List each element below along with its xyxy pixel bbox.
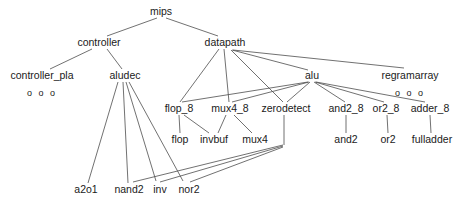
edge-mips-to-datapath [166, 18, 218, 36]
hierarchy-diagram-canvas: mipscontrollerdatapathcontroller_plaalud… [0, 0, 458, 206]
edge-zerodetect_junction-to-nand2 [133, 145, 283, 182]
edge-aludec-to-nand2 [123, 82, 128, 183]
node-invbuf[interactable]: invbuf [200, 134, 228, 145]
edge-adder_8-to-fulladder [430, 115, 431, 133]
node-or2_8[interactable]: or2_8 [373, 103, 400, 114]
node-regramarray[interactable]: regramarray [381, 70, 438, 81]
node-controller[interactable]: controller [77, 37, 120, 48]
edge-or2_8-to-or2 [387, 115, 388, 133]
edge-controller-to-aludec [107, 49, 122, 69]
edge-alu-to-or2_8 [315, 82, 384, 102]
node-mux4_8[interactable]: mux4_8 [211, 103, 248, 114]
edge-flop_8-to-invbuf [184, 115, 209, 133]
ellipsis-controller_pla_children: o o o [27, 88, 57, 98]
node-nand2[interactable]: nand2 [114, 184, 143, 195]
edge-datapath-to-regramarray [233, 50, 404, 68]
node-adder_8[interactable]: adder_8 [411, 103, 450, 114]
node-and2_8[interactable]: and2_8 [328, 103, 363, 114]
edge-aludec-to-nor2 [129, 82, 183, 181]
edge-zerodetect_junction-to-inv [160, 146, 283, 182]
node-mux4[interactable]: mux4 [242, 134, 268, 145]
node-or2[interactable]: or2 [380, 134, 395, 145]
edge-datapath-to-flop_8 [180, 49, 219, 102]
edge-mux4_8-to-invbuf [218, 115, 226, 133]
node-alu[interactable]: alu [305, 70, 319, 81]
node-inv[interactable]: inv [153, 184, 166, 195]
node-fulladder[interactable]: fulladder [412, 134, 452, 145]
node-flop[interactable]: flop [172, 134, 189, 145]
edge-aludec-to-a2o1 [88, 82, 118, 183]
node-a2o1[interactable]: a2o1 [74, 184, 97, 195]
node-controller_pla[interactable]: controller_pla [10, 70, 73, 81]
node-and2[interactable]: and2 [334, 134, 357, 145]
node-flop_8[interactable]: flop_8 [165, 103, 194, 114]
edge-alu-to-and2_8 [314, 82, 345, 102]
edge-mips-to-controller [107, 18, 157, 36]
ellipsis-regramarray_children: o o o [395, 88, 425, 98]
node-zerodetect[interactable]: zerodetect [261, 103, 310, 114]
edge-flop_8-to-flop [179, 115, 180, 133]
edge-mux4_8-to-mux4 [234, 115, 252, 133]
edge-datapath-to-mux4_8 [224, 49, 229, 102]
edge-datapath-to-zerodetect [231, 50, 283, 102]
node-aludec[interactable]: aludec [110, 70, 141, 81]
node-nor2[interactable]: nor2 [178, 184, 199, 195]
node-datapath[interactable]: datapath [205, 37, 246, 48]
edge-datapath-to-alu [232, 50, 308, 70]
edge-controller-to-controller_pla [50, 49, 92, 69]
edge-aludec-to-inv [126, 82, 156, 181]
node-mips[interactable]: mips [150, 6, 172, 17]
